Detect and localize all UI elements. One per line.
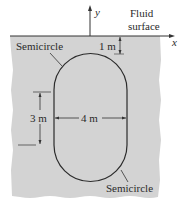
y-axis-label: y bbox=[94, 6, 100, 18]
x-axis-label: x bbox=[171, 36, 177, 48]
fluid-plate-diagram: x y Fluid surface Semicircle Semicircle … bbox=[0, 0, 183, 208]
width-dimension-label: 4 m bbox=[81, 112, 98, 124]
bottom-semicircle-label: Semicircle bbox=[106, 182, 153, 194]
y-axis-arrowhead bbox=[88, 5, 92, 11]
fluid-label-line1: Fluid bbox=[130, 7, 154, 19]
fluid-label-line2: surface bbox=[128, 20, 160, 32]
top-semicircle-label: Semicircle bbox=[16, 40, 63, 52]
depth-dimension-label: 1 m bbox=[99, 40, 116, 52]
height-dimension-label: 3 m bbox=[30, 112, 47, 124]
